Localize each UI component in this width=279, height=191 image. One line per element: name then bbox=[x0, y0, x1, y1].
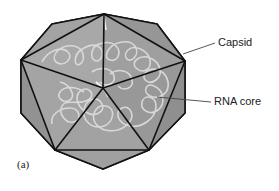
capsid-label: Capsid bbox=[218, 37, 252, 48]
panel-label: (a) bbox=[17, 159, 29, 170]
virus-capsid-diagram: Capsid RNA core (a) bbox=[0, 0, 279, 191]
rna-core-label: RNA core bbox=[214, 96, 261, 107]
capsid-leader-line bbox=[183, 43, 215, 54]
